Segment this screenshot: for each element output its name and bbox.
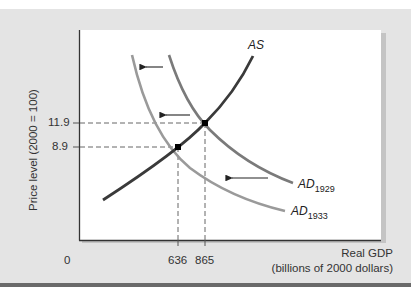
x-axis-label: Real GDP (billions of 2000 dollars) — [272, 246, 393, 276]
x-tick-636: 636 — [168, 254, 187, 266]
x-axis-label-line1: Real GDP — [272, 246, 393, 261]
equilibrium-point-1933 — [175, 144, 181, 150]
as-label: AS — [248, 38, 264, 52]
ad1933-curve — [132, 55, 285, 211]
origin-label: 0 — [64, 254, 70, 266]
y-tick-8-9: 8.9 — [52, 140, 68, 152]
x-tick-865: 865 — [195, 254, 214, 266]
ad1929-curve — [169, 55, 293, 183]
ad1929-label: AD1929 — [298, 177, 335, 194]
y-axis-label: Price level (2000 = 100) — [27, 89, 39, 211]
ad1933-label: AD1933 — [291, 204, 328, 221]
x-axis-label-line2: (billions of 2000 dollars) — [272, 261, 393, 276]
y-tick-11-9: 11.9 — [48, 116, 70, 128]
equilibrium-point-1929 — [202, 120, 208, 126]
